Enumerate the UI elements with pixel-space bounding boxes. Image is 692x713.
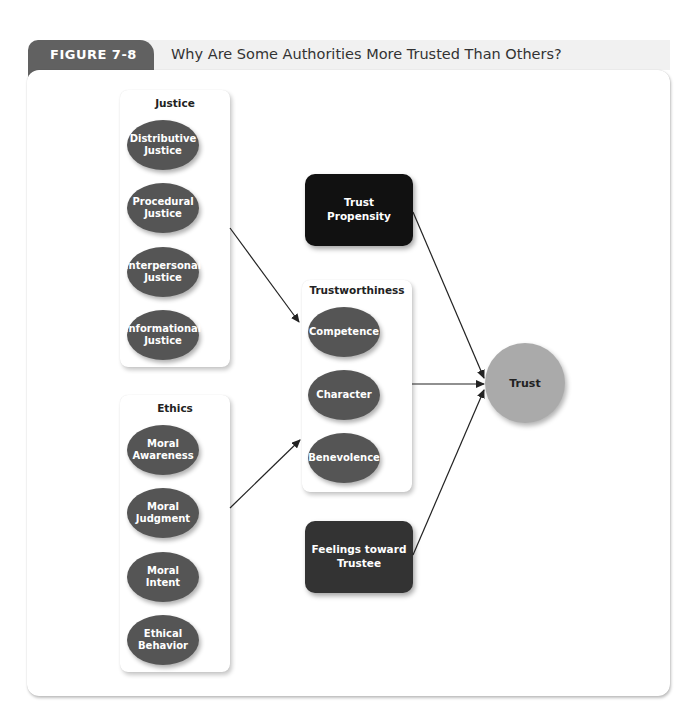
propensity-to-trust-arrow [413, 212, 484, 378]
feelings-to-trust-arrow [413, 390, 484, 555]
justice-to-trustworthiness-arrow [230, 228, 299, 322]
ethics-to-trustworthiness-arrow [230, 440, 300, 508]
connector-arrows [0, 0, 692, 713]
